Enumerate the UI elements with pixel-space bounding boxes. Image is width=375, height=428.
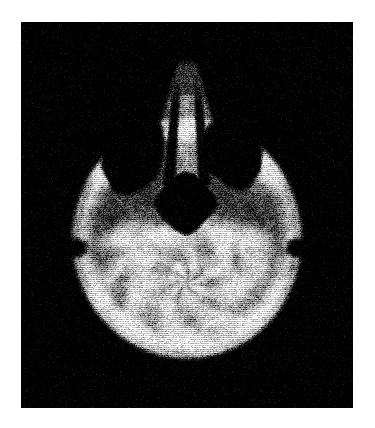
page-root xyxy=(0,0,375,428)
axial-head-scan-canvas xyxy=(21,22,353,408)
scan-image-panel xyxy=(21,22,353,408)
